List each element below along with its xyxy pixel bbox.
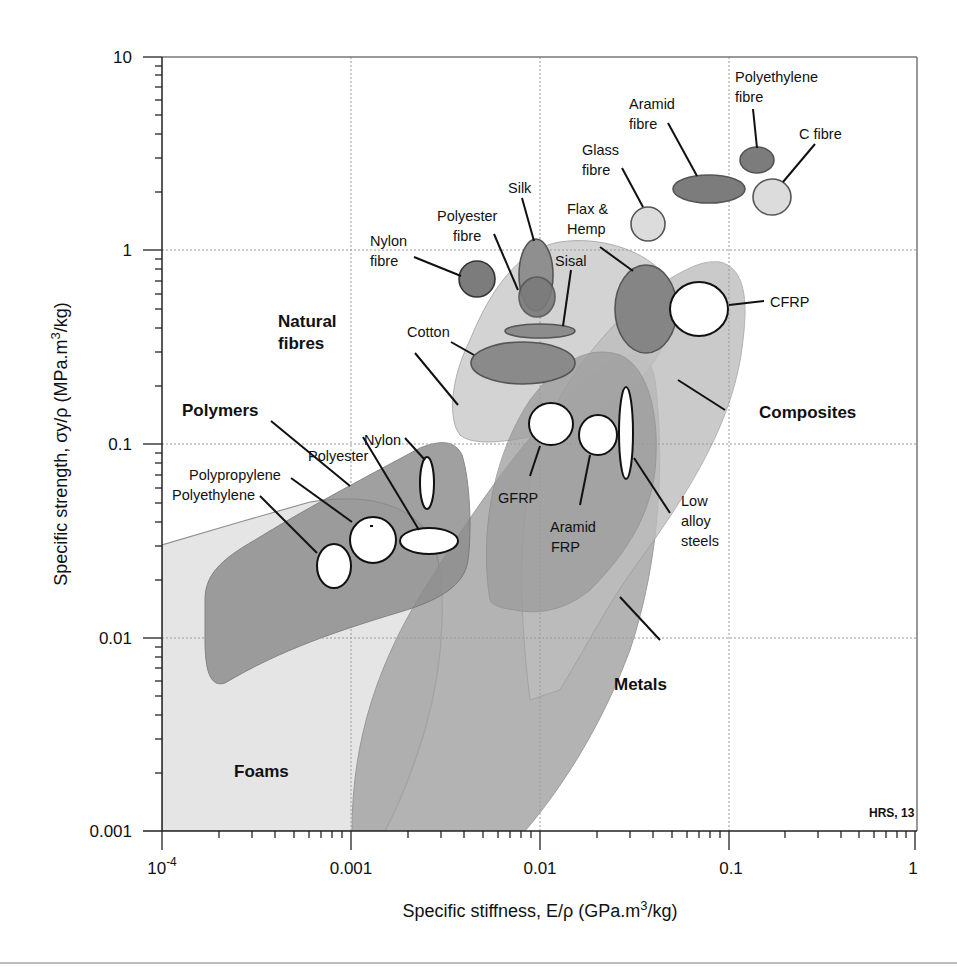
y-tick-labels: 10 1 0.1 0.01 0.001 (89, 48, 132, 841)
nylon-fibre-bubble (459, 261, 495, 297)
y-axis-title: Specific strength, σy/ρ (MPa.m3/kg) (48, 302, 71, 586)
polyester-fibre-bubble (519, 277, 555, 317)
label-flax-1: Flax & (567, 201, 608, 217)
x-tick-1: 1 (908, 859, 917, 878)
aramid-fibre-bubble (673, 175, 745, 203)
glass-fibre-bubble (631, 207, 665, 241)
label-polyester-fibre-2: fibre (453, 228, 481, 244)
x-axis-ticks (162, 831, 915, 850)
label-gfrp: GFRP (498, 490, 538, 506)
label-steel-1: Low (681, 493, 708, 509)
label-polymers: Polymers (182, 401, 259, 420)
x-tick-0.001: 0.001 (330, 859, 373, 878)
low-alloy-steels-bubble (619, 387, 633, 479)
label-composites: Composites (759, 403, 856, 422)
label-cotton: Cotton (407, 324, 450, 340)
material-property-chart: 10 1 0.1 0.01 0.001 10-4 0.001 0.01 0.1 … (0, 0, 957, 974)
y-tick-10: 10 (113, 48, 132, 67)
label-silk: Silk (508, 180, 532, 196)
aramid-frp-bubble (579, 415, 617, 455)
y-axis-ticks (143, 57, 162, 773)
cfrp-bubble (670, 282, 728, 336)
x-axis-title: Specific stiffness, E/ρ (GPa.m3/kg) (402, 898, 677, 921)
label-polyester-fibre-1: Polyester (437, 208, 498, 224)
label-glass-fibre-2: fibre (582, 162, 610, 178)
label-polypropylene: Polypropylene (189, 467, 281, 483)
label-glass-fibre-1: Glass (582, 142, 619, 158)
credit-label: HRS, 13 (869, 806, 915, 820)
flax-hemp-bubble (615, 265, 677, 353)
polypropylene-bubble (350, 517, 396, 563)
y-tick-0.001: 0.001 (89, 822, 132, 841)
nylon-bubble (420, 457, 434, 509)
y-tick-0.01: 0.01 (99, 629, 132, 648)
x-tick-0.1: 0.1 (719, 859, 743, 878)
label-c-fibre: C fibre (799, 126, 842, 142)
label-aramid-frp-1: Aramid (550, 519, 596, 535)
label-polyester: Polyester (308, 448, 369, 464)
label-nylon-fibre-2: fibre (370, 253, 398, 269)
x-tick-labels: 10-4 0.001 0.01 0.1 1 (147, 855, 918, 878)
label-steel-3: steels (681, 533, 719, 549)
label-sisal: Sisal (555, 253, 586, 269)
y-tick-0.1: 0.1 (108, 435, 132, 454)
label-foams: Foams (234, 762, 289, 781)
gfrp-bubble (529, 403, 573, 445)
polyethylene-fibre-bubble (740, 147, 774, 173)
label-pe-fibre-1: Polyethylene (735, 69, 818, 85)
label-polyethylene: Polyethylene (172, 487, 255, 503)
label-aramid-fibre-1: Aramid (629, 96, 675, 112)
sisal-bubble (505, 324, 575, 338)
label-pe-fibre-2: fibre (735, 89, 763, 105)
x-tick-0.01: 0.01 (523, 859, 556, 878)
label-metals: Metals (614, 675, 667, 694)
label-aramid-fibre-2: fibre (629, 116, 657, 132)
cotton-bubble (471, 342, 575, 384)
label-steel-2: alloy (681, 513, 712, 529)
bottom-divider (0, 962, 957, 964)
label-aramid-frp-2: FRP (551, 539, 580, 555)
polyester-bubble (400, 528, 458, 554)
x-tick-1e-4: 10-4 (147, 855, 177, 878)
polyethylene-bubble (317, 544, 351, 588)
label-nylon-fibre-1: Nylon (370, 233, 407, 249)
label-flax-2: Hemp (567, 221, 606, 237)
label-natural-fibres-2: fibres (278, 334, 324, 353)
c-fibre-bubble (753, 179, 791, 215)
y-tick-1: 1 (123, 241, 132, 260)
label-nylon: Nylon (364, 432, 401, 448)
label-cfrp: CFRP (770, 294, 809, 310)
label-natural-fibres-1: Natural (278, 312, 337, 331)
